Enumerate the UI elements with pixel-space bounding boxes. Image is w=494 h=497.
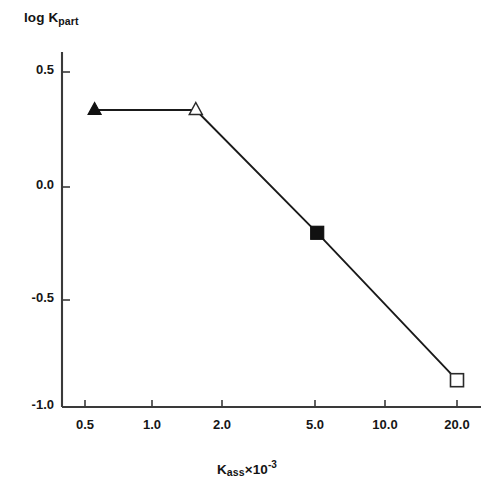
x-axis-title: Kass×10-3 bbox=[0, 459, 494, 478]
x-tick-label-0: 0.5 bbox=[57, 417, 113, 432]
x-tick-label-5: 20.0 bbox=[429, 417, 485, 432]
axis-lines bbox=[62, 52, 481, 407]
data-point-filled-triangle[interactable] bbox=[88, 103, 101, 115]
y-tick-label-3: -1.0 bbox=[8, 397, 54, 412]
x-tick-label-3: 5.0 bbox=[287, 417, 343, 432]
x-axis-title-multiplier: ×10 bbox=[245, 462, 268, 477]
x-tick-label-2: 2.0 bbox=[194, 417, 250, 432]
x-tick-label-4: 10.0 bbox=[357, 417, 413, 432]
x-axis-title-subscript: ass bbox=[227, 466, 245, 478]
y-tick-label-0: 0.5 bbox=[8, 62, 54, 77]
data-series bbox=[88, 103, 463, 387]
y-axis-ticks bbox=[62, 72, 70, 407]
x-axis-title-main: K bbox=[217, 462, 227, 477]
x-tick-label-1: 1.0 bbox=[124, 417, 180, 432]
data-point-open-square[interactable] bbox=[451, 374, 464, 387]
y-tick-label-1: 0.0 bbox=[8, 177, 54, 192]
y-tick-label-2: -0.5 bbox=[8, 290, 54, 305]
data-point-filled-square[interactable] bbox=[311, 226, 324, 239]
x-axis-title-exponent: -3 bbox=[268, 459, 277, 470]
series-line bbox=[95, 110, 457, 380]
chart-figure: log Kpart 0.5 0.0 -0 bbox=[0, 0, 494, 497]
data-point-open-triangle[interactable] bbox=[189, 103, 202, 115]
